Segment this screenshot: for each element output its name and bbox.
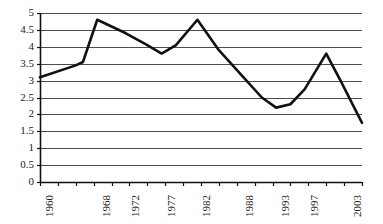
y-tick-label: 4.5 [20, 24, 34, 35]
y-tick-label: 5 [29, 7, 35, 18]
y-tick-label: 0 [29, 176, 35, 187]
x-tick-label: 1988 [244, 195, 255, 217]
chart-canvas [0, 0, 383, 224]
x-tick-label: 2003 [352, 195, 363, 217]
y-tick-label: 3 [29, 75, 35, 86]
x-tick-label: 1972 [130, 195, 141, 217]
y-tick-label: 0.5 [20, 159, 34, 170]
x-tick-label: 1968 [101, 195, 112, 217]
y-tick-label: 1.5 [20, 125, 34, 136]
y-tick-label: 2 [29, 108, 35, 119]
x-tick-label: 1960 [44, 195, 55, 217]
x-tick-label: 1977 [166, 195, 177, 217]
y-tick-label: 3.5 [20, 58, 34, 69]
y-tick-label: 1 [29, 142, 35, 153]
x-tick-label: 1997 [309, 195, 320, 217]
y-tick-label: 4 [29, 41, 35, 52]
x-tick-label: 1982 [201, 195, 212, 217]
line-chart: 00.511.522.533.544.55 196019681972197719… [0, 0, 383, 224]
y-tick-label: 2.5 [20, 92, 34, 103]
data-series-line [40, 20, 362, 123]
x-tick-label: 1993 [280, 195, 291, 217]
